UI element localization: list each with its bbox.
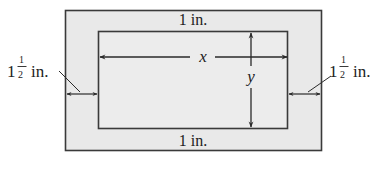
bottom-margin-label: 1 in. bbox=[179, 132, 207, 149]
top-margin-label: 1 in. bbox=[179, 11, 207, 28]
svg-text:in.: in. bbox=[31, 62, 48, 81]
svg-text:1: 1 bbox=[341, 54, 346, 65]
right-margin-label: 1 1 2 in. bbox=[329, 54, 370, 81]
svg-text:in.: in. bbox=[353, 62, 370, 81]
x-label: x bbox=[198, 47, 207, 66]
svg-text:1: 1 bbox=[7, 62, 16, 81]
left-margin-label: 1 1 2 in. bbox=[7, 54, 48, 81]
svg-text:1: 1 bbox=[329, 62, 338, 81]
y-label: y bbox=[245, 67, 255, 86]
svg-text:2: 2 bbox=[340, 69, 345, 80]
svg-text:2: 2 bbox=[18, 69, 23, 80]
svg-text:1: 1 bbox=[19, 54, 24, 65]
inner-rectangle bbox=[99, 32, 288, 129]
poster-margins-diagram: 1 in. 1 in. x y 1 1 2 in. 1 1 2 in. bbox=[0, 0, 385, 169]
